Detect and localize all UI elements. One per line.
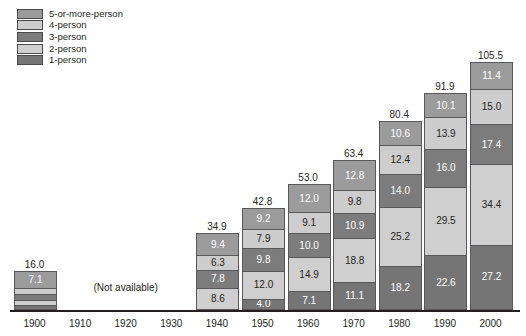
bar-segment[interactable]: 11.4 bbox=[471, 63, 512, 90]
stacked-bar[interactable]: 9.46.37.88.6 bbox=[196, 233, 239, 310]
legend-swatch bbox=[17, 55, 43, 65]
bar-segment[interactable]: 9.8 bbox=[334, 191, 375, 214]
bar-group: 10.612.414.025.218.280.4 bbox=[379, 123, 420, 310]
bar-group: 11.415.017.434.427.2105.5 bbox=[470, 64, 511, 310]
legend-item: 1-person bbox=[17, 54, 123, 66]
bar-segment[interactable]: 10.1 bbox=[425, 94, 466, 118]
legend-swatch bbox=[17, 20, 43, 30]
bar-segment-value-label: 9.8 bbox=[348, 197, 362, 207]
bar-segment-value-label: 14.0 bbox=[391, 186, 410, 196]
stacked-bar[interactable]: 11.415.017.434.427.2 bbox=[470, 62, 513, 310]
bar-segment-value-label: 13.9 bbox=[436, 129, 455, 139]
bar-segment-value-label: 10.0 bbox=[299, 241, 318, 251]
stacked-bar[interactable]: 7.1 bbox=[14, 271, 57, 310]
legend-item: 4-person bbox=[17, 20, 123, 32]
bar-segment[interactable]: 4.0 bbox=[243, 300, 284, 309]
bar-segment[interactable]: 16.0 bbox=[425, 150, 466, 187]
bar-segment[interactable]: 10.6 bbox=[380, 122, 421, 147]
legend-item: 5-or-more-person bbox=[17, 8, 123, 20]
bar-segment[interactable]: 8.6 bbox=[197, 289, 238, 309]
bar-segment[interactable]: 13.9 bbox=[425, 118, 466, 150]
bar-segment-value-label: 4.0 bbox=[257, 300, 271, 309]
bar-segment-value-label: 10.1 bbox=[436, 101, 455, 111]
bar-segment-value-label: 12.0 bbox=[254, 280, 273, 290]
x-axis-tick-1930: 1930 bbox=[151, 318, 192, 330]
bar-segment[interactable]: 10.9 bbox=[334, 214, 375, 239]
bar-segment[interactable]: 7.8 bbox=[197, 271, 238, 289]
bar-segment[interactable]: 9.4 bbox=[197, 234, 238, 256]
bar-segment[interactable]: 25.2 bbox=[380, 208, 421, 267]
bar-total-label: 105.5 bbox=[470, 50, 511, 64]
bar-segment[interactable]: 7.1 bbox=[15, 272, 56, 289]
bar-segment[interactable]: 11.1 bbox=[334, 283, 375, 309]
bar-segment[interactable]: 12.8 bbox=[334, 161, 375, 191]
bar-segment-value-label: 9.8 bbox=[257, 255, 271, 265]
bar-segment-value-label: 9.4 bbox=[211, 240, 225, 250]
bar-segment-value-label: 14.9 bbox=[299, 270, 318, 280]
chart-legend: 5-or-more-person4-person3-person2-person… bbox=[17, 8, 123, 66]
bar-segment[interactable] bbox=[15, 306, 56, 309]
x-axis-tick-1910: 1910 bbox=[60, 318, 101, 330]
legend-item: 2-person bbox=[17, 43, 123, 55]
bar-segment[interactable]: 6.3 bbox=[197, 256, 238, 271]
stacked-bar[interactable]: 12.89.810.918.811.1 bbox=[333, 160, 376, 310]
legend-swatch bbox=[17, 9, 43, 19]
bar-segment-value-label: 34.4 bbox=[482, 200, 501, 210]
bar-segment[interactable]: 18.8 bbox=[334, 239, 375, 283]
bar-segment[interactable]: 14.0 bbox=[380, 175, 421, 208]
bar-segment-value-label: 27.2 bbox=[482, 272, 501, 282]
x-axis-tick-2000: 2000 bbox=[470, 318, 511, 330]
stacked-bar[interactable]: 10.612.414.025.218.2 bbox=[379, 121, 422, 310]
legend-swatch bbox=[17, 32, 43, 42]
bar-group: 7.116.0 bbox=[14, 273, 55, 310]
legend-item-label: 2-person bbox=[49, 44, 87, 54]
x-axis-tick-1950: 1950 bbox=[242, 318, 283, 330]
bar-group: 12.89.810.918.811.163.4 bbox=[333, 162, 374, 310]
bar-segment-value-label: 7.8 bbox=[211, 274, 225, 284]
bar-segment-value-label: 29.5 bbox=[436, 216, 455, 226]
bar-segment[interactable]: 10.0 bbox=[289, 234, 330, 257]
legend-item-label: 5-or-more-person bbox=[49, 9, 123, 19]
legend-item-label: 4-person bbox=[49, 20, 87, 30]
bar-segment[interactable]: 9.2 bbox=[243, 209, 284, 230]
x-axis-tick-1980: 1980 bbox=[379, 318, 420, 330]
bar-segment[interactable]: 17.4 bbox=[471, 125, 512, 166]
bar-segment[interactable]: 9.8 bbox=[243, 249, 284, 272]
bar-segment-value-label: 10.6 bbox=[391, 129, 410, 139]
stacked-bar[interactable]: 10.113.916.029.522.6 bbox=[424, 93, 467, 310]
bar-segment[interactable]: 14.9 bbox=[289, 258, 330, 293]
bar-segment[interactable]: 22.6 bbox=[425, 256, 466, 309]
x-axis-tick-1990: 1990 bbox=[424, 318, 465, 330]
bar-segment-value-label: 11.4 bbox=[482, 71, 501, 81]
x-axis-tick-1960: 1960 bbox=[288, 318, 329, 330]
bar-segment-value-label: 15.0 bbox=[482, 102, 501, 112]
bar-segment-value-label: 18.2 bbox=[391, 283, 410, 293]
stacked-bar[interactable]: 12.09.110.014.97.1 bbox=[288, 184, 331, 310]
not-available-note: (Not available) bbox=[60, 282, 192, 293]
legend-item-label: 3-person bbox=[49, 32, 87, 42]
legend-swatch bbox=[17, 44, 43, 54]
bar-segment-value-label: 18.8 bbox=[345, 256, 364, 266]
bar-segment[interactable]: 18.2 bbox=[380, 267, 421, 309]
bar-segment[interactable]: 12.4 bbox=[380, 146, 421, 175]
bar-segment-value-label: 22.6 bbox=[436, 278, 455, 288]
bar-segment-value-label: 12.4 bbox=[391, 155, 410, 165]
bar-segment[interactable]: 15.0 bbox=[471, 90, 512, 125]
bar-segment[interactable]: 27.2 bbox=[471, 246, 512, 309]
x-axis-tick-1900: 1900 bbox=[14, 318, 55, 330]
bar-group: 9.27.99.812.04.042.8 bbox=[242, 210, 283, 310]
legend-item: 3-person bbox=[17, 31, 123, 43]
bar-segment[interactable]: 34.4 bbox=[471, 165, 512, 245]
bar-segment[interactable]: 29.5 bbox=[425, 188, 466, 257]
bar-segment-value-label: 25.2 bbox=[391, 232, 410, 242]
bar-segment[interactable]: 12.0 bbox=[289, 185, 330, 213]
stacked-bar[interactable]: 9.27.99.812.04.0 bbox=[242, 208, 285, 310]
bar-segment[interactable]: 9.1 bbox=[289, 213, 330, 234]
bar-segment[interactable]: 12.0 bbox=[243, 272, 284, 300]
bar-group: 10.113.916.029.522.691.9 bbox=[424, 95, 465, 310]
bar-total-label: 63.4 bbox=[333, 148, 374, 162]
bar-segment[interactable]: 7.9 bbox=[243, 230, 284, 248]
bar-segment[interactable]: 7.1 bbox=[289, 292, 330, 309]
bar-segment-value-label: 7.9 bbox=[257, 234, 271, 244]
bar-segment-value-label: 11.1 bbox=[345, 291, 364, 301]
